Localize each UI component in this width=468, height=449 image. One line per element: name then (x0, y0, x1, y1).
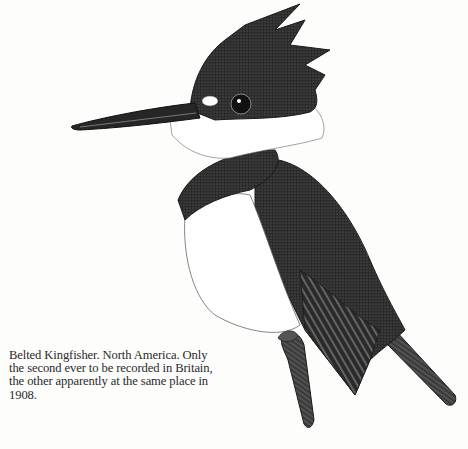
lore-spot (202, 96, 218, 106)
branch (281, 333, 314, 427)
book-page: Belted Kingfisher. North America. Only t… (0, 0, 468, 449)
caption-line: the other apparently at the same place i… (9, 375, 239, 388)
figure-caption: Belted Kingfisher. North America. Only t… (9, 349, 239, 402)
eye (231, 94, 251, 114)
caption-line: 1908. (9, 389, 239, 402)
